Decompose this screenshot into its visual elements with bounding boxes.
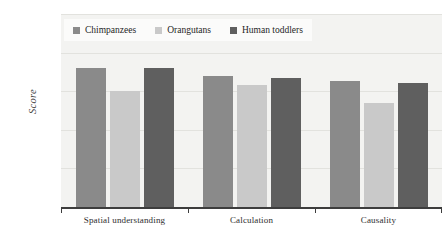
bar-chart: Score 0.20.40.60.81 Spatial understandin… [0,0,442,243]
x-axis-tick [315,207,316,213]
x-axis-tick [61,207,62,213]
bar [330,81,360,207]
x-axis-category-label: Spatial understanding [84,215,165,225]
legend-swatch-icon [155,27,162,34]
chart-legend: ChimpanzeesOrangutansHuman toddlers [64,19,312,41]
bar-group [188,14,315,207]
bar [398,83,428,207]
plot-area [61,14,442,207]
x-axis-line [61,207,442,209]
bar [203,76,233,207]
bar [110,91,140,207]
legend-label: Chimpanzees [85,25,136,35]
bar [271,78,301,207]
x-axis-category-label: Causality [361,215,396,225]
bar-group [61,14,188,207]
bar-group [315,14,442,207]
bar [144,68,174,207]
legend-label: Human toddlers [242,25,303,35]
y-axis-label: Score [27,62,38,142]
bar [364,103,394,207]
legend-swatch-icon [73,27,80,34]
legend-item: Human toddlers [230,25,303,35]
legend-item: Orangutans [155,25,211,35]
legend-item: Chimpanzees [73,25,136,35]
bar [76,68,106,207]
x-axis-category-label: Calculation [230,215,273,225]
legend-label: Orangutans [167,25,211,35]
x-axis-tick [188,207,189,213]
bar [237,85,267,207]
legend-swatch-icon [230,27,237,34]
